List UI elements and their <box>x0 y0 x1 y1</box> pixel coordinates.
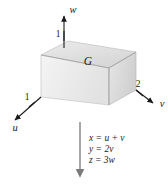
u-axis-label: u <box>12 122 17 133</box>
v-axis-tick-label: 2 <box>136 79 141 89</box>
u-axis-group: u 1 <box>12 92 41 133</box>
solid-label-g: G <box>84 55 93 67</box>
equation-y: y = 2v <box>88 144 114 154</box>
w-axis-label: w <box>69 4 76 15</box>
w-axis-tick-label: 1 <box>56 29 61 39</box>
v-axis-tick <box>136 90 143 96</box>
solid-box-g <box>41 41 136 105</box>
w-axis-group: w 1 <box>56 4 77 48</box>
v-axis-group: v 2 <box>136 79 165 109</box>
equation-block: x = u + v y = 2v z = 3w <box>88 133 125 165</box>
equation-z: z = 3w <box>88 155 116 165</box>
u-axis-tick-label: 1 <box>25 92 30 102</box>
figure-container: G w 1 u 1 v 2 x = u + v y = 2v z = <box>0 0 168 185</box>
equation-x: x = u + v <box>88 133 125 143</box>
v-axis-label: v <box>160 98 165 109</box>
uvw-box-figure: G w 1 u 1 v 2 x = u + v y = 2v z = <box>0 0 168 185</box>
u-axis-tick <box>29 102 35 107</box>
